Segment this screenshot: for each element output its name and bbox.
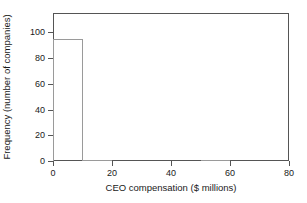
histogram-bar [53, 39, 83, 161]
histogram-chart: Frequency (number of companies) CEO comp… [0, 0, 307, 203]
x-axis-tick [230, 161, 231, 166]
y-axis-tick [48, 135, 53, 136]
histogram-bar [201, 160, 231, 162]
y-axis-tick [48, 58, 53, 59]
x-axis-tick [112, 161, 113, 166]
x-axis-title: CEO compensation ($ millions) [53, 182, 289, 193]
y-axis-tick-label: 100 [0, 28, 45, 37]
y-axis-tick-label: 60 [0, 80, 45, 89]
plot-area [53, 13, 289, 161]
y-axis-tick [48, 110, 53, 111]
y-axis-tick [48, 32, 53, 33]
x-axis-tick-label: 60 [215, 169, 245, 178]
x-axis-tick [289, 161, 290, 166]
x-axis-tick [53, 161, 54, 166]
x-axis-tick-label: 80 [274, 169, 304, 178]
y-axis-tick-label: 40 [0, 106, 45, 115]
x-axis-tick-label: 0 [38, 169, 68, 178]
y-axis-tick-label: 80 [0, 54, 45, 63]
y-axis-tick-label: 20 [0, 131, 45, 140]
x-axis-tick [171, 161, 172, 166]
histogram-bar [83, 160, 113, 162]
y-axis-tick-label: 0 [0, 157, 45, 166]
x-axis-tick-label: 40 [156, 169, 186, 178]
y-axis-tick [48, 84, 53, 85]
x-axis-tick-label: 20 [97, 169, 127, 178]
